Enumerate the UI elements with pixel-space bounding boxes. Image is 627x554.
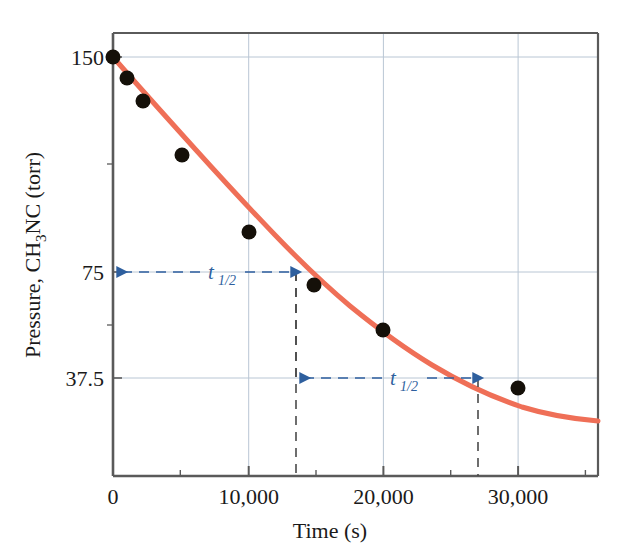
svg-text:Pressure, CH3NC (torr): Pressure, CH3NC (torr) (20, 152, 49, 358)
y-axis-title-prefix: Pressure, CH (20, 242, 45, 358)
ytick-label-75: 75 (82, 260, 104, 285)
y-tick-labels: 150 75 37.5 (66, 45, 105, 391)
data-point (376, 323, 391, 338)
data-point (120, 71, 135, 86)
first-halflife-sublabel: 1/2 (218, 273, 236, 288)
data-point (242, 225, 257, 240)
xtick-label-0: 0 (108, 484, 119, 509)
x-axis-title: Time (s) (293, 518, 367, 543)
data-point (106, 50, 121, 65)
ytick-label-150: 150 (71, 45, 104, 70)
xtick-label-10000: 10,000 (218, 484, 279, 509)
kinetics-figure: t 1/2 t 1/2 150 75 37.5 0 10,000 20,000 … (0, 0, 627, 554)
pressure-vs-time-chart: t 1/2 t 1/2 150 75 37.5 0 10,000 20,000 … (0, 0, 627, 554)
data-point (136, 94, 151, 109)
xtick-label-20000: 20,000 (353, 484, 414, 509)
data-point (511, 381, 526, 396)
y-axis-title-suffix: NC (torr) (20, 152, 45, 234)
data-point (175, 148, 190, 163)
y-axis-title: Pressure, CH3NC (torr) (20, 152, 49, 358)
x-tick-labels: 0 10,000 20,000 30,000 (108, 484, 549, 509)
ytick-label-37.5: 37.5 (66, 366, 105, 391)
second-halflife-sublabel: 1/2 (400, 379, 418, 394)
data-point (307, 278, 322, 293)
y-axis-title-subscript: 3 (33, 234, 49, 242)
xtick-label-30000: 30,000 (488, 484, 549, 509)
